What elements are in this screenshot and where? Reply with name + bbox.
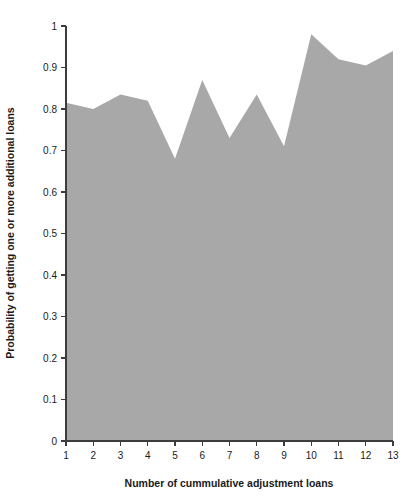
x-tick-label: 4 bbox=[145, 450, 151, 461]
y-tick-label: 0.8 bbox=[43, 104, 57, 115]
y-axis-title: Probability of getting one or more addit… bbox=[4, 107, 16, 359]
x-tick-label: 7 bbox=[227, 450, 233, 461]
y-tick-label: 0.9 bbox=[43, 62, 57, 73]
x-tick-label: 13 bbox=[387, 450, 399, 461]
y-tick-label: 0.6 bbox=[43, 187, 57, 198]
x-tick-label: 11 bbox=[333, 450, 344, 461]
area-chart-figure: 00.10.20.30.40.50.60.70.80.91 1234567891… bbox=[0, 0, 417, 499]
x-tick-label: 10 bbox=[306, 450, 318, 461]
x-tick-label: 9 bbox=[281, 450, 287, 461]
y-tick-label: 0.5 bbox=[43, 228, 57, 239]
y-tick-label: 0.2 bbox=[43, 353, 57, 364]
y-tick-label: 1 bbox=[51, 21, 57, 32]
x-tick-label: 12 bbox=[360, 450, 372, 461]
x-tick-label: 3 bbox=[118, 450, 124, 461]
y-tick-label: 0.4 bbox=[43, 270, 57, 281]
x-tick-label: 1 bbox=[63, 450, 69, 461]
y-tick-label: 0.1 bbox=[43, 394, 57, 405]
x-tick-label: 5 bbox=[172, 450, 178, 461]
x-tick-label: 2 bbox=[90, 450, 96, 461]
x-tick-label: 6 bbox=[199, 450, 205, 461]
x-tick-label: 8 bbox=[254, 450, 260, 461]
x-axis-title: Number of cummulative adjustment loans bbox=[125, 477, 334, 489]
y-tick-label: 0 bbox=[51, 436, 57, 447]
y-tick-label: 0.7 bbox=[43, 145, 57, 156]
y-tick-label: 0.3 bbox=[43, 311, 57, 322]
